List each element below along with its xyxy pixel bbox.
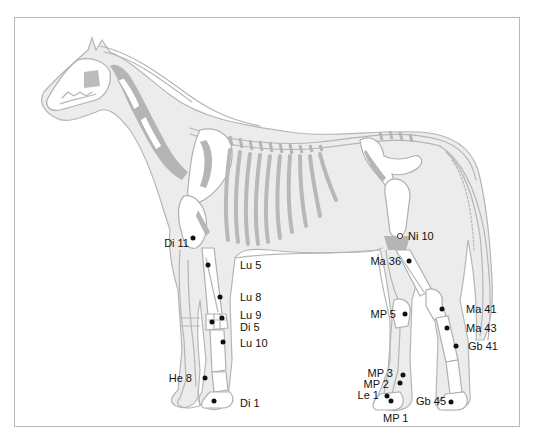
point-marker-gb45 bbox=[449, 400, 454, 405]
point-marker-mp3 bbox=[401, 373, 406, 378]
point-marker-mp2 bbox=[398, 381, 403, 386]
point-marker-di5 bbox=[210, 320, 215, 325]
point-marker-lu9 bbox=[220, 316, 225, 321]
point-label-gb41: Gb 41 bbox=[468, 340, 498, 352]
point-label-di11: Di 11 bbox=[164, 237, 189, 249]
point-label-mp1: MP 1 bbox=[383, 412, 408, 424]
point-label-ma41: Ma 41 bbox=[466, 303, 497, 315]
point-label-ma36: Ma 36 bbox=[370, 255, 401, 267]
point-marker-mp5 bbox=[403, 312, 408, 317]
point-label-lu9: Lu 9 bbox=[240, 309, 261, 321]
cannon-bone-front bbox=[210, 330, 226, 372]
point-marker-le1 bbox=[385, 394, 390, 399]
point-label-he8: He 8 bbox=[169, 372, 192, 384]
point-marker-ma43 bbox=[445, 326, 450, 331]
point-marker-di11 bbox=[191, 236, 196, 241]
point-label-le1: Le 1 bbox=[358, 389, 379, 401]
point-marker-lu8 bbox=[218, 295, 223, 300]
point-label-mp5: MP 5 bbox=[371, 308, 396, 320]
point-label-lu8: Lu 8 bbox=[240, 291, 261, 303]
point-label-lu5: Lu 5 bbox=[240, 259, 261, 271]
point-marker-ni10 bbox=[397, 233, 403, 239]
point-marker-di1 bbox=[212, 399, 217, 404]
point-marker-lu5 bbox=[206, 263, 211, 268]
pastern-front bbox=[212, 372, 228, 392]
point-label-lu10: Lu 10 bbox=[240, 337, 268, 349]
point-marker-he8 bbox=[203, 376, 208, 381]
point-label-di5: Di 5 bbox=[240, 321, 260, 333]
point-label-gb45: Gb 45 bbox=[416, 395, 446, 407]
point-marker-lu10 bbox=[221, 340, 226, 345]
point-marker-mp1 bbox=[389, 399, 394, 404]
point-marker-ma36 bbox=[407, 259, 412, 264]
point-label-di1: Di 1 bbox=[240, 397, 260, 409]
point-marker-ma41 bbox=[440, 307, 445, 312]
point-marker-gb41 bbox=[454, 344, 459, 349]
point-label-ma43: Ma 43 bbox=[466, 322, 497, 334]
point-label-ni10: Ni 10 bbox=[408, 230, 434, 242]
horse-skeleton-illustration: .ol { fill: none; stroke: #b5b5b5; strok… bbox=[0, 0, 535, 436]
